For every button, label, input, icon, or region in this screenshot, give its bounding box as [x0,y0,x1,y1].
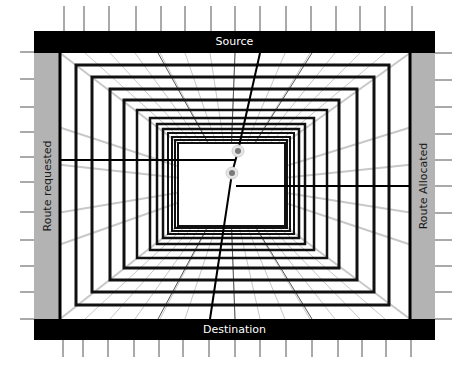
diagram-canvas [0,0,469,373]
source-label: Source [34,36,435,47]
route-tunnel-diagram: Source Destination Route requested Route… [0,0,469,373]
inner-room [179,144,284,225]
node-lower-icon [229,170,235,176]
grid-ray-side [60,165,178,178]
route-requested-label: Route requested [42,141,53,232]
node-upper-icon [235,148,241,154]
destination-label: Destination [34,324,435,335]
route-allocated-label: Route Allocated [418,143,429,230]
